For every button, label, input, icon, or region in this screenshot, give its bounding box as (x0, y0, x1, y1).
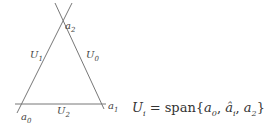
vertex-label-a0: a0 (21, 112, 31, 125)
formula-close-brace: } (257, 100, 265, 115)
span-formula: Ui = span{a0, âi, a2} (132, 101, 265, 118)
edge-label-u0: U0 (86, 50, 99, 63)
formula-sep: , (236, 100, 244, 115)
line-u1 (17, 3, 72, 113)
vertex-label-a1: a1 (108, 101, 118, 114)
vertex-a0-sub: 0 (27, 117, 31, 125)
formula-term-a0: a (204, 100, 212, 115)
vertex-label-a2: a2 (65, 21, 75, 34)
edge-label-u2: U2 (57, 106, 70, 119)
edge-u2-sub: 2 (65, 111, 69, 119)
formula-sep: , (217, 100, 225, 115)
edge-u0-sub: 0 (94, 55, 98, 63)
edge-u1-sub: 1 (38, 55, 42, 63)
vertex-a1-sub: 1 (114, 106, 118, 114)
formula-term-a2: a (244, 100, 252, 115)
formula-lhs: U (132, 100, 143, 115)
edge-label-u1: U1 (30, 50, 43, 63)
vertex-a2-sub: 2 (71, 26, 75, 34)
formula-equals-span: = span{ (146, 100, 205, 115)
formula-term-ahat-i: â (225, 100, 233, 115)
